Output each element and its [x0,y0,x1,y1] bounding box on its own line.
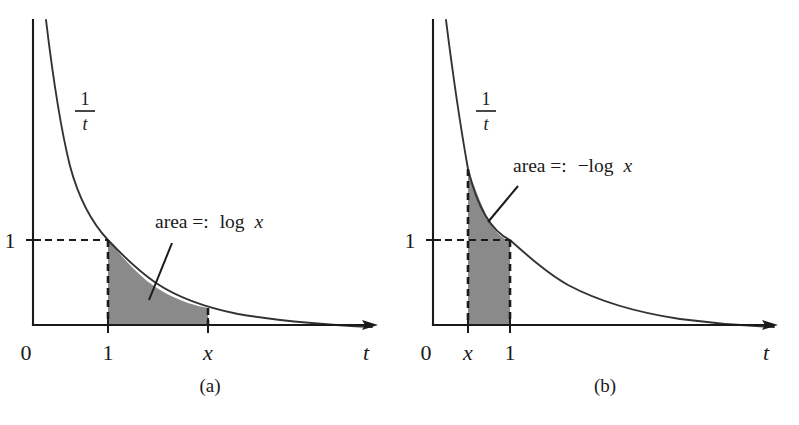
x-tick-label-x-b: x [462,340,473,365]
area-label-function-a: log [220,211,245,232]
area-label-function-b: −log [578,155,614,176]
y-tick-label-b: 1 [405,228,416,253]
area-label-prefix-a: area =: [155,211,209,232]
figure-caption: Figure 7.11 [0,414,799,425]
plot-b: 1 t 1 0 x 1 t area =: −log x [400,0,799,425]
x-tick-label-zero-a: 0 [21,340,32,365]
curve-label-numerator-a: 1 [81,89,90,109]
plot-a: 1 t 1 0 1 x t area =: log x [0,0,399,425]
area-label-a: area =: log x [155,211,263,232]
panel-a: 1 t 1 0 1 x t area =: log x [0,0,399,425]
curve-label-denominator-b: t [483,114,489,134]
area-label-prefix-b: area =: [513,155,567,176]
area-label-leader-b [488,186,518,222]
hyperbola-curve-a [46,20,372,327]
x-tick-label-x-a: x [202,340,213,365]
y-tick-label-a: 1 [5,228,16,253]
area-label-variable-b: x [622,155,632,176]
subcaption-b: (b) [565,375,645,397]
x-tick-label-one-b: 1 [505,340,516,365]
x-axis-name-a: t [363,340,370,365]
shaded-area-a [108,240,208,325]
x-axis-name-b: t [763,340,770,365]
curve-label-numerator-b: 1 [482,89,491,109]
panel-b: 1 t 1 0 x 1 t area =: −log x [400,0,799,425]
x-tick-label-zero-b: 0 [421,340,432,365]
area-label-b: area =: −log x [513,155,632,176]
area-label-variable-a: x [253,211,263,232]
curve-label-denominator-a: t [82,114,88,134]
figure-container: 1 t 1 0 1 x t area =: log x [0,0,799,425]
subcaption-a: (a) [170,375,250,397]
x-tick-label-one-a: 1 [103,340,114,365]
